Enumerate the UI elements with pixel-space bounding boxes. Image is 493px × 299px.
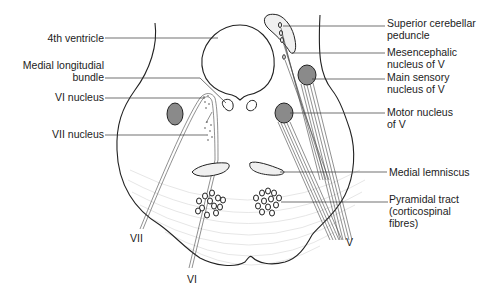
label-nerve-vi: VI <box>187 273 197 285</box>
label-medial-lemniscus: Medial lemniscus <box>389 166 470 178</box>
label-pyramidal-line1: Pyramidal tract <box>389 193 459 205</box>
label-main-sensory: Main sensory nucleus of V <box>387 71 449 95</box>
vii-nucleus-oval <box>167 103 183 125</box>
mlf-right <box>247 100 257 110</box>
pons-diagram <box>0 0 493 299</box>
label-scp-line2: peduncle <box>387 29 476 41</box>
main-sensory-nucleus-v <box>298 65 316 85</box>
label-mlf: Medial longitudial bundle <box>23 59 104 83</box>
label-fourth-ventricle: 4th ventricle <box>47 32 104 44</box>
label-main-sensory-line1: Main sensory <box>387 71 449 83</box>
label-pyramidal: Pyramidal tract (corticospinal fibres) <box>389 193 459 229</box>
label-motor-v: Motor nucleus of V <box>387 106 453 130</box>
label-motor-v-line2: of V <box>387 118 453 130</box>
label-scp-line1: Superior cerebellar <box>387 17 476 29</box>
fourth-ventricle-shape <box>202 25 274 100</box>
pyramidal-tract-left <box>196 190 226 218</box>
label-scp: Superior cerebellar peduncle <box>387 17 476 41</box>
leader-mlf-diag <box>200 78 226 103</box>
label-vii-nucleus: VII nucleus <box>52 128 104 140</box>
medial-lemniscus-right <box>250 162 284 175</box>
label-vi-nucleus: VI nucleus <box>55 91 104 103</box>
label-mlf-line1: Medial longitudial <box>23 59 104 71</box>
label-mesencephalic-line2: nucleus of V <box>387 58 457 70</box>
label-main-sensory-line2: nucleus of V <box>387 83 449 95</box>
vii-nucleus-dots <box>204 121 213 141</box>
label-nerve-vii: VII <box>130 232 143 244</box>
pons-outline-right <box>252 15 354 264</box>
label-mlf-line2: bundle <box>23 71 104 83</box>
medial-lemniscus-left <box>192 163 229 176</box>
label-mesencephalic-line1: Mesencephalic <box>387 46 457 58</box>
label-motor-v-line1: Motor nucleus <box>387 106 453 118</box>
label-pyramidal-line3: fibres) <box>389 217 459 229</box>
label-pyramidal-line2: (corticospinal <box>389 205 459 217</box>
pons-outline-left <box>117 23 252 265</box>
label-nerve-v: V <box>346 236 353 248</box>
label-mesencephalic: Mesencephalic nucleus of V <box>387 46 457 70</box>
